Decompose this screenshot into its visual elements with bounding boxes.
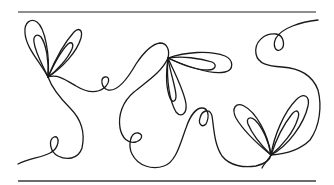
doodle-illustration (0, 0, 334, 185)
